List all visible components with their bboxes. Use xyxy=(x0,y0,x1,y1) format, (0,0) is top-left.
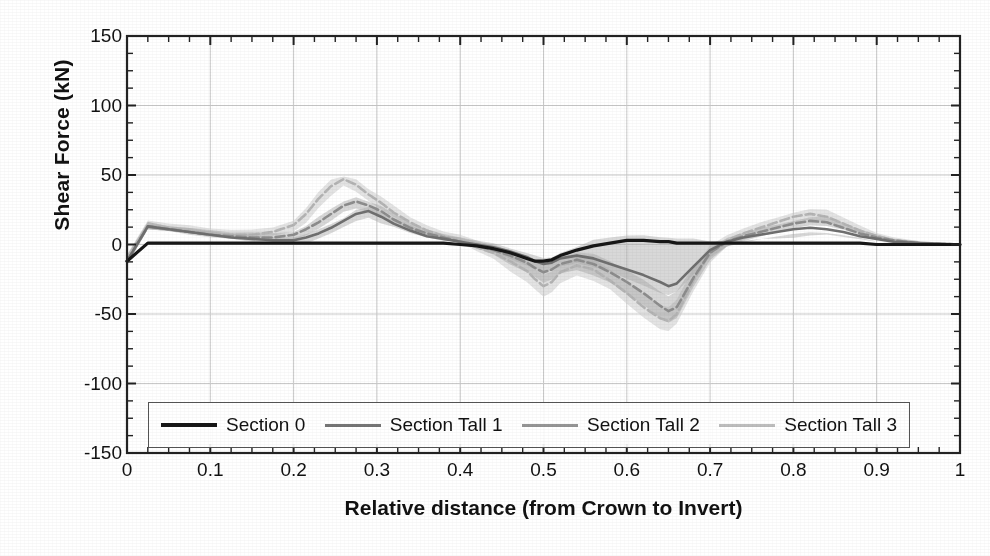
legend-item[interactable]: Section 0 xyxy=(161,414,305,436)
legend-line-icon xyxy=(522,424,578,427)
legend-label: Section Tall 1 xyxy=(390,414,503,436)
legend-item[interactable]: Section Tall 2 xyxy=(522,414,700,436)
legend-line-icon xyxy=(161,423,217,427)
legend-item[interactable]: Section Tall 1 xyxy=(325,414,503,436)
legend-label: Section 0 xyxy=(226,414,305,436)
legend-label: Section Tall 2 xyxy=(587,414,700,436)
legend-label: Section Tall 3 xyxy=(784,414,897,436)
plot-area xyxy=(0,0,990,556)
legend-line-icon xyxy=(325,424,381,427)
chart-legend: Section 0Section Tall 1Section Tall 2Sec… xyxy=(148,402,910,448)
legend-line-icon xyxy=(719,424,775,427)
legend-item[interactable]: Section Tall 3 xyxy=(719,414,897,436)
chart-figure: Shear Force (kN) 150100500-50-100-150 00… xyxy=(0,0,990,556)
